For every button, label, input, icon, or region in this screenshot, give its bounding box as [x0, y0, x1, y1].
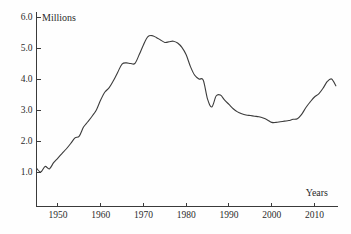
x-tick-label: 1980 — [177, 210, 196, 220]
line-chart-figure: 1.02.03.04.05.06.0 195019601970198019902… — [0, 0, 351, 234]
series-line-millions — [37, 36, 336, 172]
data-series — [37, 36, 336, 172]
y-tick-label: 6.0 — [21, 12, 33, 22]
y-axis-title: Millions — [42, 12, 76, 23]
chart-canvas: 1.02.03.04.05.06.0 195019601970198019902… — [0, 0, 351, 234]
x-tick-label: 1990 — [219, 210, 238, 220]
axes — [37, 12, 339, 207]
y-tick-label: 5.0 — [21, 43, 33, 53]
x-axis-ticks: 1950196019701980199020002010 — [48, 203, 324, 221]
y-tick-label: 2.0 — [21, 136, 33, 146]
x-tick-label: 2010 — [305, 210, 324, 220]
x-tick-label: 1960 — [91, 210, 110, 220]
y-axis-ticks: 1.02.03.04.05.06.0 — [21, 12, 41, 177]
y-tick-label: 3.0 — [21, 105, 33, 115]
x-axis-title: Years — [306, 187, 328, 198]
x-tick-label: 2000 — [262, 210, 281, 220]
x-tick-label: 1970 — [134, 210, 153, 220]
x-tick-label: 1950 — [48, 210, 67, 220]
y-tick-label: 1.0 — [21, 167, 33, 177]
y-tick-label: 4.0 — [21, 74, 33, 84]
